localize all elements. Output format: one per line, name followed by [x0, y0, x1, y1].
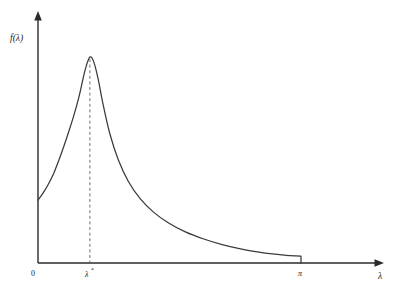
spectral-density-curve	[38, 57, 301, 263]
peak-tick-label: λ	[84, 270, 89, 279]
axes-group	[34, 11, 384, 267]
origin-tick-label: 0	[31, 269, 35, 278]
curve-group	[38, 57, 301, 263]
x-axis-label: λ	[377, 271, 382, 281]
y-axis-arrowhead	[34, 11, 42, 21]
pi-tick-label: π	[298, 269, 303, 278]
figure-container: f(λ) λ 0 λ * π	[0, 0, 397, 286]
peak-tick-star-icon: *	[91, 267, 94, 273]
x-axis-arrowhead	[375, 259, 385, 267]
spectral-density-chart: f(λ) λ 0 λ * π	[0, 0, 397, 286]
labels-group: f(λ) λ 0 λ * π	[10, 33, 382, 281]
y-axis-label: f(λ)	[10, 33, 23, 44]
